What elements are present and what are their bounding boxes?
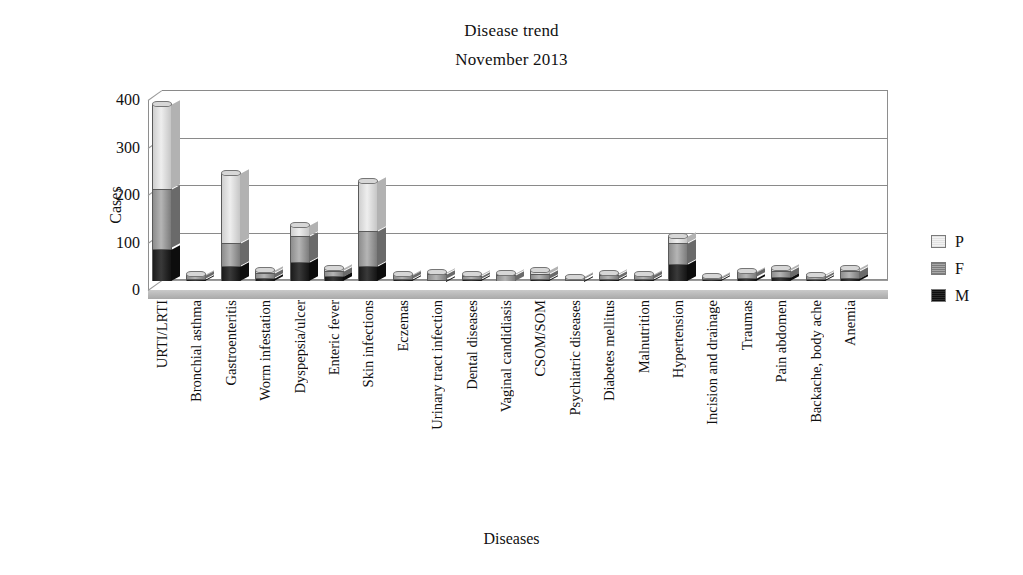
plot-floor <box>148 290 888 299</box>
x-axis-tick-label: Malnutrition <box>636 300 653 373</box>
bar-segment-front <box>222 174 240 243</box>
bar-top-cap <box>462 271 482 277</box>
x-axis-tick-label: Eczemas <box>395 300 412 352</box>
bar-segment-front <box>222 267 240 281</box>
bar-column <box>840 268 860 281</box>
bar-segment-f <box>358 231 378 266</box>
bar-top-cap <box>221 170 241 176</box>
bar-segment-m <box>221 266 241 281</box>
bar-segment-m <box>771 277 791 281</box>
bar-segment-front <box>359 267 377 281</box>
bar-segment-m <box>668 264 688 281</box>
bar-top-cap <box>496 270 516 276</box>
bar-top-cap <box>186 271 206 277</box>
bar-segment-side <box>240 169 249 243</box>
bar-top-cap <box>771 265 791 271</box>
bar-segment-front <box>153 105 171 189</box>
bar-segment-front <box>463 280 481 281</box>
bar-segment-f <box>152 189 172 248</box>
bar-segment-side <box>171 186 180 249</box>
legend-item-p: P <box>931 228 969 255</box>
y-axis-tick-label: 0 <box>132 281 140 299</box>
legend-swatch-m-icon <box>931 289 946 302</box>
bar-segment-side <box>377 227 386 265</box>
bar-segment-front <box>325 277 343 281</box>
bar-segment-m <box>840 278 860 281</box>
bar-segment-f <box>290 236 310 262</box>
y-axis-tick-label: 400 <box>116 91 140 109</box>
bar-segment-front <box>635 280 653 281</box>
bar-top-cap <box>530 267 550 273</box>
legend-swatch-p-icon <box>931 235 946 248</box>
legend-swatch-f-icon <box>931 262 946 275</box>
bar-segment-p <box>152 104 172 189</box>
bar-segment-front <box>222 244 240 266</box>
bar-segment-m <box>702 279 722 281</box>
bar-top-cap <box>599 270 619 276</box>
x-axis-tick-label: Psychiatric diseases <box>567 300 584 416</box>
bar-segment-front <box>841 279 859 281</box>
bar-segment-m <box>358 266 378 281</box>
bar-segment-front <box>153 250 171 281</box>
bar-segment-m <box>186 279 206 281</box>
x-axis-title: Diseases <box>0 530 1023 548</box>
bar-top-cap <box>634 271 654 277</box>
x-axis-tick-label: Enteric fever <box>326 300 343 375</box>
bar-segment-front <box>566 281 584 282</box>
bar-column <box>634 274 654 281</box>
bar-segment-m <box>255 278 275 281</box>
legend-item-f: F <box>931 255 969 282</box>
bar-column <box>221 173 241 281</box>
bar-top-cap <box>737 268 757 274</box>
bar-column <box>358 181 378 281</box>
chart-root: Disease trend November 2013 010020030040… <box>0 0 1023 575</box>
bar-segment-front <box>669 265 687 281</box>
legend-label-p: P <box>955 233 964 251</box>
bar-segment-p <box>358 181 378 231</box>
x-axis-tick-label: Traumas <box>739 300 756 350</box>
bar-segment-side <box>171 101 180 190</box>
bar-segment-front <box>703 280 721 281</box>
bar-top-cap <box>152 101 172 107</box>
bar-column <box>255 270 275 281</box>
bar-top-cap <box>290 222 310 228</box>
x-axis-tick-label: Worm infestation <box>257 300 274 401</box>
x-axis-tick-label: Incision and drainage <box>704 300 721 425</box>
x-axis-tick-label: Skin infections <box>360 300 377 387</box>
legend-label-m: M <box>955 287 969 305</box>
chart-title: Disease trend November 2013 <box>0 16 1023 74</box>
bar-column <box>530 270 550 281</box>
bar-segment-m <box>462 279 482 281</box>
legend-item-m: M <box>931 282 969 309</box>
gridline <box>162 233 888 234</box>
bar-column <box>186 274 206 281</box>
gridline <box>162 138 888 139</box>
bar-column <box>771 268 791 281</box>
bar-column <box>806 274 826 281</box>
bar-segment-m <box>290 262 310 281</box>
x-axis-tick-label: Anemia <box>842 300 859 346</box>
bar-top-cap <box>427 269 447 275</box>
x-axis-tick-label: CSOM/SOM <box>532 300 549 377</box>
x-axis-tick-label: Urinary tract infection <box>429 300 446 430</box>
x-axis-tick-label: URTI/LRTI <box>154 300 171 368</box>
bar-column <box>393 274 413 281</box>
x-axis-tick-label: Vaginal candidiasis <box>498 300 515 412</box>
bar-top-cap <box>255 267 275 273</box>
bar-segment-front <box>394 280 412 281</box>
bar-segment-front <box>187 280 205 281</box>
x-axis-tick-label: Hypertension <box>670 300 687 378</box>
bar-segment-front <box>600 280 618 281</box>
y-axis-title: Cases <box>107 145 125 265</box>
x-axis-tick-labels: URTI/LRTIBronchial asthmaGastroenteritis… <box>148 300 888 515</box>
bar-segment-side <box>309 232 318 262</box>
bar-segment-m <box>806 279 826 281</box>
bar-segment-f <box>771 271 791 278</box>
bar-segment-front <box>531 280 549 281</box>
bar-top-cap <box>840 265 860 271</box>
x-axis-tick-label: Pain abdomen <box>773 300 790 383</box>
bar-segment-front <box>291 237 309 262</box>
bar-segment-front <box>497 276 515 281</box>
bar-segment-front <box>841 272 859 279</box>
bar-top-cap <box>393 271 413 277</box>
